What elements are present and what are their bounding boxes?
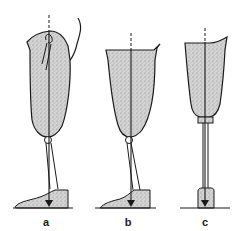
socket-b bbox=[106, 44, 160, 137]
panel-a bbox=[13, 15, 81, 208]
panel-label-c: c bbox=[195, 216, 215, 228]
panel-label-b: b bbox=[118, 216, 138, 228]
foot-b bbox=[100, 190, 150, 208]
knee-joint-a bbox=[45, 137, 52, 144]
panel-b bbox=[95, 33, 160, 208]
panel-label-a: a bbox=[36, 216, 56, 228]
prosthesis-diagram bbox=[0, 0, 244, 231]
socket-c bbox=[185, 37, 227, 117]
foot-a bbox=[15, 190, 68, 208]
cable-a bbox=[70, 18, 81, 60]
panel-c bbox=[180, 28, 230, 208]
